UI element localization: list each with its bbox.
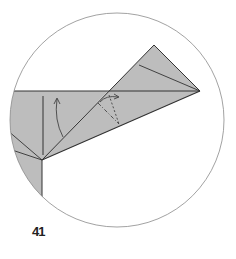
origami-diagram (0, 0, 236, 259)
paper-shape (0, 45, 200, 200)
step-number: 41 (32, 224, 44, 239)
